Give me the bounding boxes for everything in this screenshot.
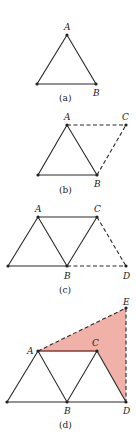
label-a: A [26, 346, 34, 356]
panel-c: A C B D (c) [6, 204, 130, 295]
point-d [124, 264, 127, 267]
label-e: E [122, 297, 130, 307]
label-c: C [92, 338, 99, 348]
point-a [65, 123, 68, 126]
label-c: C [94, 204, 101, 214]
shaded-region [38, 308, 126, 402]
point-b [94, 82, 97, 85]
panel-a: A B (a) [35, 22, 100, 103]
triangle-a [37, 35, 96, 84]
label-b: B [63, 271, 71, 281]
label-a: A [63, 112, 71, 122]
point-b [65, 400, 68, 403]
caption-b: (b) [59, 185, 72, 195]
dashed-bc [97, 125, 126, 175]
zigzag-c [8, 217, 97, 266]
label-d: D [122, 406, 130, 416]
zigzag-d [7, 351, 97, 402]
label-d: D [122, 271, 130, 281]
point-a [65, 33, 68, 36]
label-b: B [63, 406, 71, 416]
label-a: A [63, 22, 71, 32]
dashed-cd [97, 217, 126, 266]
point-left [6, 264, 9, 267]
caption-c: (c) [59, 285, 71, 295]
label-b: B [93, 179, 101, 189]
triangle-construction-diagram: A B (a) A C B (b) A C B D (c) [0, 0, 136, 436]
triangle-b [38, 125, 97, 175]
label-a: A [34, 204, 42, 214]
point-d [124, 400, 127, 403]
panel-d: A C E B D (d) [5, 297, 130, 430]
label-b: B [92, 88, 100, 98]
point-a [36, 349, 39, 352]
point-c [95, 349, 98, 352]
caption-d: (d) [59, 420, 72, 430]
point-left [36, 173, 39, 176]
point-left [35, 82, 38, 85]
point-c [95, 215, 98, 218]
label-c: C [122, 112, 129, 122]
point-c [124, 123, 127, 126]
panel-b: A C B (b) [36, 112, 129, 195]
point-a [36, 215, 39, 218]
point-b [65, 264, 68, 267]
point-left [5, 400, 8, 403]
point-b [95, 173, 98, 176]
caption-a: (a) [59, 93, 71, 103]
